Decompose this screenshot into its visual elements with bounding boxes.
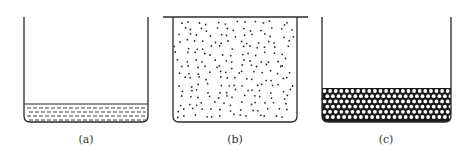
solid-layer — [322, 88, 452, 122]
beaker-outline — [24, 17, 148, 122]
caption-c: (c) — [379, 133, 394, 146]
liquid-layer — [27, 108, 146, 120]
beaker-b-gas — [163, 17, 308, 122]
caption-b: (b) — [227, 133, 243, 146]
beaker-c-solid — [322, 17, 452, 122]
caption-a: (a) — [78, 133, 93, 146]
beaker-a-liquid — [24, 17, 148, 122]
gas-particles — [173, 20, 294, 118]
beaker-outline — [173, 17, 297, 122]
